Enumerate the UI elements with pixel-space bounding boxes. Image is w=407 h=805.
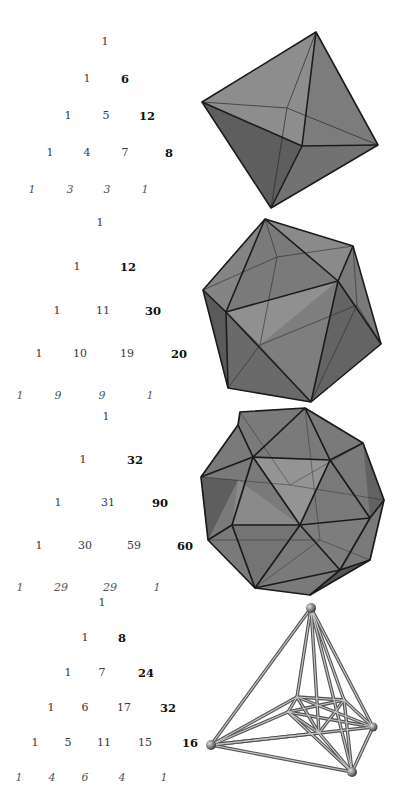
cross-polytope-figure [0,0,407,805]
cross-polytope-icon [206,603,378,777]
